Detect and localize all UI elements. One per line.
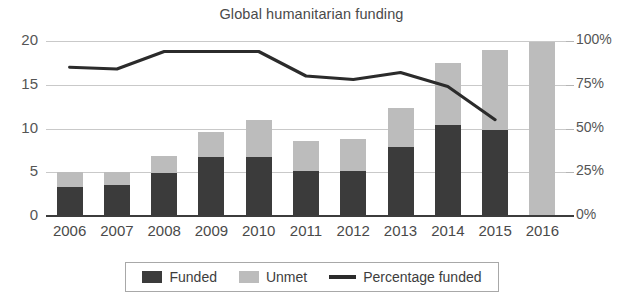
bar-column (388, 108, 414, 217)
x-tick-label: 2016 (516, 222, 568, 239)
bar-segment-funded (388, 147, 414, 216)
bar-segment-unmet (482, 50, 508, 131)
bar-column (246, 120, 272, 216)
bar-column (151, 156, 177, 216)
bar-segment-unmet (151, 156, 177, 174)
y-tick-label-left: 5 (6, 162, 38, 179)
bar-column (340, 139, 366, 216)
legend-item[interactable]: Funded (131, 269, 227, 285)
x-tick-label: 2008 (138, 222, 190, 239)
chart-legend: FundedUnmetPercentage funded (125, 262, 499, 292)
x-axis-baseline (46, 215, 574, 217)
legend-label: Funded (169, 269, 216, 285)
y-tick-label-right: 50% (576, 119, 621, 135)
y-tick-label-left: 0 (6, 206, 38, 223)
bar-segment-unmet (293, 141, 319, 171)
legend-label: Percentage funded (363, 269, 481, 285)
bar-segment-funded (293, 171, 319, 217)
bar-column (293, 141, 319, 216)
bar-column (57, 172, 83, 216)
x-tick-label: 2009 (185, 222, 237, 239)
x-tick-label: 2011 (280, 222, 332, 239)
bar-column (198, 132, 224, 216)
y-tick-label-right: 100% (576, 31, 621, 47)
legend-item[interactable]: Percentage funded (318, 269, 492, 285)
legend-line-icon (329, 275, 356, 278)
bar-segment-funded (104, 185, 130, 216)
bar-column (435, 63, 461, 216)
y-tick-label-left: 20 (6, 31, 38, 48)
x-tick-label: 2007 (91, 222, 143, 239)
bar-segment-funded (340, 171, 366, 217)
x-tick-label: 2006 (44, 222, 96, 239)
bar-segment-funded (57, 187, 83, 216)
chart-title: Global humanitarian funding (0, 6, 623, 22)
bar-segment-funded (246, 157, 272, 217)
legend-label: Unmet (266, 269, 307, 285)
y-tick-label-right: 25% (576, 162, 621, 178)
x-tick-label: 2013 (375, 222, 427, 239)
legend-swatch-icon (142, 271, 162, 283)
bar-segment-unmet (340, 139, 366, 171)
x-tick-label: 2015 (469, 222, 521, 239)
gridline (46, 41, 566, 42)
bar-segment-funded (435, 125, 461, 216)
y-tick-mark-right (566, 172, 574, 173)
bar-segment-unmet (435, 63, 461, 125)
chart-figure: Global humanitarian funding 05101520 0%2… (0, 0, 623, 308)
x-tick-label: 2014 (422, 222, 474, 239)
bar-column (104, 172, 130, 216)
legend-item[interactable]: Unmet (228, 269, 318, 285)
bar-segment-unmet (529, 42, 555, 216)
y-tick-label-right: 0% (576, 206, 621, 222)
y-tick-mark-right (566, 85, 574, 86)
x-tick-label: 2010 (233, 222, 285, 239)
y-tick-label-right: 75% (576, 75, 621, 91)
y-tick-label-left: 10 (6, 119, 38, 136)
bar-segment-funded (198, 157, 224, 216)
x-tick-label: 2012 (327, 222, 379, 239)
bar-column (482, 50, 508, 216)
bar-segment-funded (151, 173, 177, 216)
y-tick-mark-right (566, 129, 574, 130)
legend-swatch-icon (239, 271, 259, 283)
bar-column (529, 42, 555, 216)
bar-segment-unmet (104, 172, 130, 185)
bar-segment-unmet (388, 108, 414, 147)
bar-segment-funded (482, 130, 508, 216)
bar-segment-unmet (198, 132, 224, 157)
bar-segment-unmet (57, 172, 83, 187)
bar-segment-unmet (246, 120, 272, 157)
y-tick-label-left: 15 (6, 75, 38, 92)
y-tick-mark-right (566, 41, 574, 42)
